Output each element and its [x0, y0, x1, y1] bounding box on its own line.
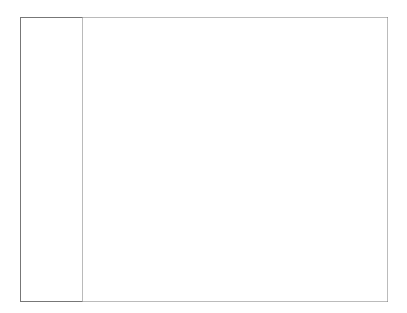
- mesh-plot: [82, 17, 388, 302]
- plot-frame: [82, 17, 388, 302]
- legend-panel: [20, 17, 82, 302]
